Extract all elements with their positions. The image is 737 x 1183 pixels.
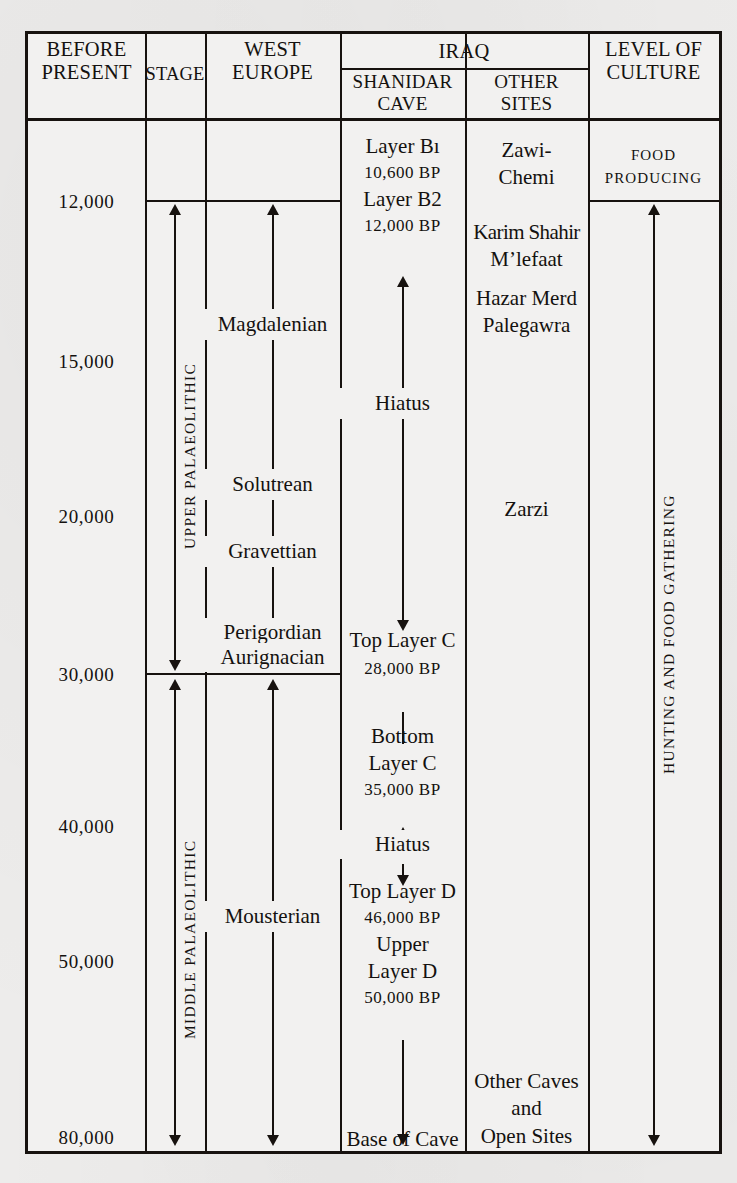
stage-middle-arrowhead-bottom (169, 1135, 181, 1146)
year-label-40000: 40,000 (28, 816, 145, 838)
year-label-80000: 80,000 (28, 1127, 145, 1149)
header-other-sites-line1: OTHER (465, 71, 588, 93)
level-food-producing-line2: PRODUCING (588, 167, 719, 190)
west-europe-industry-gravettian: Gravettian (205, 536, 340, 567)
west-europe-lower-arrowhead-bottom (267, 1135, 279, 1146)
shanidar-entry-hiatus-upper: Hiatus (340, 388, 465, 419)
level-hunting-and-food-gathering-label: HUNTING AND FOOD GATHERING (660, 489, 678, 779)
header-stage: STAGE (145, 64, 205, 85)
header-level-line1: LEVEL OF (588, 38, 719, 61)
header-shanidar-line2: CAVE (340, 93, 465, 115)
west-europe-industry-aurignacian: Aurignacian (205, 643, 340, 672)
year-label-50000: 50,000 (28, 951, 145, 973)
other-sites-zawi: Zawi- (465, 138, 588, 163)
west-europe-upper-arrow-shaft (272, 214, 274, 663)
header-before-present-line1: BEFORE (28, 38, 145, 61)
header-before-present-line2: PRESENT (28, 61, 145, 84)
col-rule-shanidar (465, 34, 467, 1151)
shanidar-entry-top-layer-c: Top Layer C (340, 628, 465, 653)
chronology-figure: BEFORE PRESENT STAGE WEST EUROPE IRAQ SH… (0, 0, 737, 1183)
other-sites-hazar-merd: Hazar Merd (465, 286, 588, 311)
year-label-20000: 20,000 (28, 506, 145, 528)
header-iraq-label: IRAQ (340, 40, 588, 63)
header-before-present: BEFORE PRESENT (28, 38, 145, 85)
stage-upper-arrowhead-bottom (169, 660, 181, 671)
header-other-sites-line2: SITES (465, 93, 588, 115)
shanidar-entry-upper: Upper (340, 932, 465, 957)
stage-upper-palaeolithic-label: UPPER PALAEOLITHIC (181, 358, 199, 554)
header-west-europe-line2: EUROPE (205, 61, 340, 84)
shanidar-entry-layer-b1: Layer Bı (340, 134, 465, 159)
shanidar-entry-35000-bp: 35,000 BP (340, 780, 465, 800)
level-food-producing-line1: FOOD (588, 144, 719, 167)
shanidar-base-arrow-shaft (402, 1040, 404, 1138)
header-west-europe-line1: WEST (205, 38, 340, 61)
year-label-15000: 15,000 (28, 351, 145, 373)
shanidar-entry-top-layer-d: Top Layer D (340, 879, 465, 904)
shanidar-entry-28000-bp: 28,000 BP (340, 659, 465, 679)
other-sites-and: and (465, 1096, 588, 1121)
other-sites-open-sites: Open Sites (465, 1124, 588, 1149)
shanidar-entry-hiatus-lower: Hiatus (340, 830, 465, 859)
shanidar-entry-layer-d: Layer D (340, 959, 465, 984)
year-label-12000: 12,000 (28, 191, 145, 213)
west-europe-industry-solutrean: Solutrean (205, 469, 340, 500)
shanidar-entry-layer-c: Layer C (340, 751, 465, 776)
chronology-table: BEFORE PRESENT STAGE WEST EUROPE IRAQ SH… (25, 31, 722, 1154)
other-sites-karim-shahir: Karim Shahir (463, 220, 590, 245)
header-other-sites: OTHER SITES (465, 71, 588, 114)
other-sites-chemi: Chemi (465, 165, 588, 190)
level-hunting-arrow-shaft (653, 214, 655, 1139)
header-level-of-culture: LEVEL OF CULTURE (588, 38, 719, 85)
stage-middle-arrow-shaft (174, 689, 176, 1139)
other-sites-other-caves: Other Caves (465, 1069, 588, 1094)
shanidar-entry-12000-bp: 12,000 BP (340, 216, 465, 236)
other-sites-mlefaat: M’lefaat (465, 247, 588, 272)
shanidar-hiatus1-arrow-shaft (402, 286, 404, 623)
shanidar-entry-base-of-cave: Base of Cave (338, 1127, 467, 1152)
other-sites-zarzi: Zarzi (465, 497, 588, 522)
header-iraq-split-rule (340, 68, 588, 70)
header-shanidar-cave: SHANIDAR CAVE (340, 71, 465, 114)
level-hunting-arrowhead-bottom (648, 1135, 660, 1146)
header-bottom-rule (28, 118, 719, 121)
divider-12000-level-culture (588, 200, 719, 202)
stage-middle-palaeolithic-label: MIDDLE PALAEOLITHIC (181, 835, 199, 1044)
shanidar-entry-bottom: Bottom (340, 724, 465, 749)
shanidar-entry-50000-bp: 50,000 BP (340, 988, 465, 1008)
other-sites-palegawra: Palegawra (465, 313, 588, 338)
shanidar-entry-10600-bp: 10,600 BP (340, 163, 465, 183)
stage-upper-arrow-shaft (174, 214, 176, 663)
header-level-line2: CULTURE (588, 61, 719, 84)
shanidar-entry-layer-b2: Layer B2 (340, 187, 465, 212)
header-stage-label: STAGE (145, 64, 205, 85)
level-food-producing: FOOD PRODUCING (588, 144, 719, 189)
divider-12000-stage-westeurope (145, 200, 340, 202)
year-label-30000: 30,000 (28, 664, 145, 686)
header-iraq: IRAQ (340, 40, 588, 63)
header-shanidar-line1: SHANIDAR (340, 71, 465, 93)
shanidar-entry-46000-bp: 46,000 BP (340, 908, 465, 928)
west-europe-industry-magdalenian: Magdalenian (205, 309, 340, 340)
header-west-europe: WEST EUROPE (205, 38, 340, 85)
divider-30000-stage-westeurope (145, 673, 340, 675)
west-europe-industry-mousterian: Mousterian (205, 901, 340, 932)
